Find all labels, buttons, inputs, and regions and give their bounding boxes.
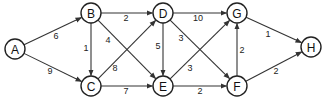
node-label: B xyxy=(87,7,95,21)
node-label: F xyxy=(233,80,240,94)
edge-weight-label: 2 xyxy=(273,66,278,76)
edge-a-c xyxy=(24,53,82,81)
edge-weight-label: 5 xyxy=(155,41,160,51)
node-label: G xyxy=(232,7,241,21)
node-label: H xyxy=(307,41,316,55)
edge-weight-label: 1 xyxy=(83,43,88,53)
edge-weight-label: 2 xyxy=(197,86,202,96)
edge-weight-label: 7 xyxy=(123,86,128,96)
edge-weight-label: 8 xyxy=(112,63,117,73)
node-label: A xyxy=(11,43,19,57)
node-label: C xyxy=(87,80,96,94)
edge-weight-label: 2 xyxy=(239,45,244,55)
node-a: A xyxy=(5,39,25,59)
node-f: F xyxy=(227,76,247,96)
edge-weight-label: 9 xyxy=(47,66,52,76)
node-label: D xyxy=(159,7,168,21)
edge-weight-label: 10 xyxy=(193,13,203,23)
node-g: G xyxy=(227,3,247,23)
edge-weight-label: 1 xyxy=(265,29,270,39)
edge-g-h xyxy=(246,17,301,42)
node-h: H xyxy=(301,37,321,57)
edge-weight-label: 4 xyxy=(105,35,110,45)
edges-layer xyxy=(24,13,302,86)
edge-weight-label: 3 xyxy=(187,63,192,73)
network-graph: 6921487510332212 ABCDEGFH xyxy=(0,0,322,98)
node-b: B xyxy=(81,3,101,23)
node-d: D xyxy=(153,3,173,23)
edge-weight-label: 6 xyxy=(53,31,58,41)
arrow-icon xyxy=(24,53,82,81)
node-label: E xyxy=(159,80,167,94)
arrow-icon xyxy=(246,17,301,42)
node-e: E xyxy=(153,76,173,96)
edge-weight-label: 2 xyxy=(123,13,128,23)
node-c: C xyxy=(81,76,101,96)
edge-weight-label: 3 xyxy=(178,33,183,43)
